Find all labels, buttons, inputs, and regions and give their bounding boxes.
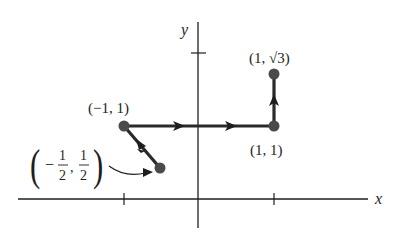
svg-text:): )	[93, 141, 103, 191]
svg-text:−: −	[45, 156, 54, 173]
y-axis-label: y	[179, 21, 189, 39]
arrow-icon	[143, 168, 153, 177]
pointer-curve	[109, 166, 146, 174]
point-1-sqrt3	[269, 69, 280, 80]
label-1-1: (1, 1)	[250, 142, 283, 159]
coordinate-diagram: y x (−1, 1) (1, 1) (1, √3) ( − 1 2 , 1 2…	[0, 0, 397, 234]
label-neg1-1: (−1, 1)	[88, 100, 129, 117]
x-axis-label: x	[374, 190, 382, 207]
svg-text:2: 2	[59, 168, 66, 183]
label-1-sqrt3: (1, √3)	[249, 50, 290, 67]
arrow-icon	[132, 139, 146, 155]
svg-text:1: 1	[80, 148, 87, 163]
svg-text:1: 1	[59, 148, 66, 163]
svg-text:,: ,	[70, 160, 74, 175]
svg-text:2: 2	[80, 168, 87, 183]
label-neg-half-half: ( − 1 2 , 1 2 )	[30, 141, 103, 191]
svg-text:(: (	[30, 141, 40, 191]
point-1-1	[269, 121, 280, 132]
point-neg1-1	[119, 121, 130, 132]
point-neg-half-half	[155, 163, 166, 174]
